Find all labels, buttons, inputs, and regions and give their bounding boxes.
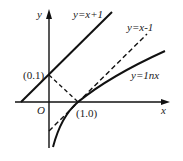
curve-label-y-ln-x: y=1nx [130, 69, 159, 81]
y-axis-arrow-icon [46, 9, 52, 19]
point-label-1-0: (1.0) [76, 107, 97, 120]
origin-label: O [37, 104, 45, 116]
line-y-x-minus-1 [49, 34, 147, 131]
dashed-connector [49, 75, 78, 102]
line-y-x-plus-1 [21, 12, 112, 102]
y-axis-label: y [36, 8, 42, 20]
function-graph: y x O y=x+1 y=x-1 y=1nx (0.1) (1.0) [0, 0, 183, 161]
curve-label-y-x-plus-1: y=x+1 [72, 8, 103, 20]
curve-ln-x [53, 51, 165, 147]
curve-label-y-x-minus-1: y=x-1 [126, 21, 153, 33]
x-axis-label: x [160, 104, 166, 116]
point-label-0-1: (0.1) [23, 69, 44, 82]
